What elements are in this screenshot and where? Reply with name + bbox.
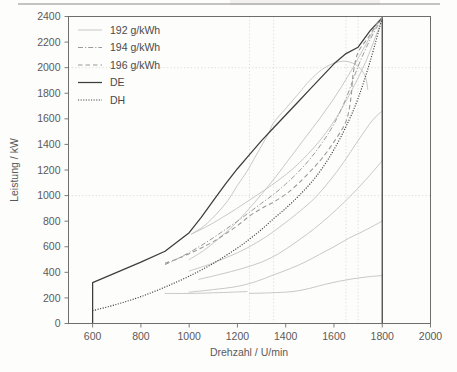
legend-label-3: DE — [110, 76, 125, 88]
y-tick-label-800: 800 — [43, 215, 61, 227]
legend-label-2: 196 g/kWh — [110, 59, 160, 71]
x-axis-title: Drehzahl / U/min — [210, 346, 288, 358]
x-tick-label-1200: 1200 — [226, 330, 250, 342]
y-tick-label-200: 200 — [43, 292, 61, 304]
x-tick-label-800: 800 — [132, 330, 150, 342]
chart-figure: 600800100012001400160018002000 020040060… — [0, 0, 457, 372]
y-tick-label-1600: 1600 — [37, 112, 61, 124]
y-tick-label-1000: 1000 — [37, 189, 61, 201]
y-tick-label-0: 0 — [55, 317, 61, 329]
x-tick-label-600: 600 — [84, 330, 102, 342]
legend-label-4: DH — [110, 94, 125, 106]
x-tick-label-1000: 1000 — [177, 330, 201, 342]
x-tick-label-2000: 2000 — [419, 330, 443, 342]
legend-label-1: 194 g/kWh — [110, 41, 160, 53]
y-tick-label-2400: 2400 — [37, 10, 61, 22]
engine-map-chart: 600800100012001400160018002000 020040060… — [0, 0, 457, 372]
y-tick-label-400: 400 — [43, 266, 61, 278]
y-tick-label-2000: 2000 — [37, 61, 61, 73]
y-tick-label-1200: 1200 — [37, 164, 61, 176]
x-tick-label-1400: 1400 — [274, 330, 298, 342]
y-tick-label-1400: 1400 — [37, 138, 61, 150]
y-axis-title: Leistung / kW — [8, 138, 20, 202]
y-tick-label-600: 600 — [43, 240, 61, 252]
x-tick-label-1600: 1600 — [322, 330, 346, 342]
y-tick-label-2200: 2200 — [37, 36, 61, 48]
legend-label-0: 192 g/kWh — [110, 24, 160, 36]
y-tick-label-1800: 1800 — [37, 87, 61, 99]
x-tick-label-1800: 1800 — [371, 330, 395, 342]
